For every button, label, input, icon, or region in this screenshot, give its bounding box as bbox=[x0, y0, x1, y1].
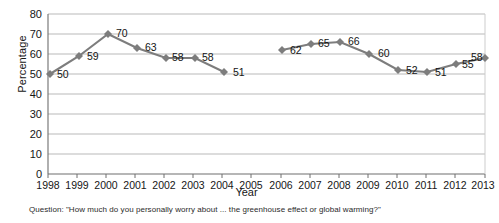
data-label: 58 bbox=[471, 51, 483, 63]
data-label: 52 bbox=[406, 64, 418, 76]
data-label: 63 bbox=[145, 41, 157, 53]
figure-caption: Question: "How much do you personally wo… bbox=[29, 205, 381, 214]
data-label: 50 bbox=[57, 68, 69, 80]
data-label: 65 bbox=[318, 37, 330, 49]
data-label: 66 bbox=[348, 35, 360, 47]
plot-area: Percentage 80 70 60 50 40 30 20 10 0 bbox=[0, 0, 493, 200]
grid-lines bbox=[48, 14, 485, 154]
data-label: 70 bbox=[116, 27, 128, 39]
data-label: 60 bbox=[378, 47, 390, 59]
x-axis-title: Year bbox=[0, 186, 493, 198]
x-axis-ticks bbox=[48, 174, 485, 178]
data-label: 62 bbox=[290, 44, 302, 56]
data-label: 58 bbox=[202, 51, 214, 63]
data-label: 58 bbox=[172, 51, 184, 63]
line-chart-svg bbox=[0, 0, 493, 200]
data-label: 51 bbox=[233, 66, 245, 78]
data-label: 59 bbox=[87, 50, 99, 62]
data-label: 51 bbox=[435, 66, 447, 78]
